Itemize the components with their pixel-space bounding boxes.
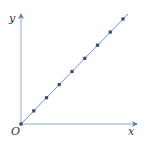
data-point <box>70 70 73 73</box>
origin-label: O <box>11 125 20 138</box>
data-points <box>19 17 124 125</box>
data-point <box>96 44 99 47</box>
data-point <box>121 17 124 20</box>
data-point <box>45 96 48 99</box>
chart: y x O <box>0 0 149 145</box>
y-axis-label: y <box>8 12 16 25</box>
data-point <box>58 83 61 86</box>
data-line <box>21 14 128 124</box>
data-point <box>109 30 112 33</box>
x-axis-label: x <box>128 125 135 138</box>
data-point <box>83 57 86 60</box>
data-point <box>32 109 35 112</box>
